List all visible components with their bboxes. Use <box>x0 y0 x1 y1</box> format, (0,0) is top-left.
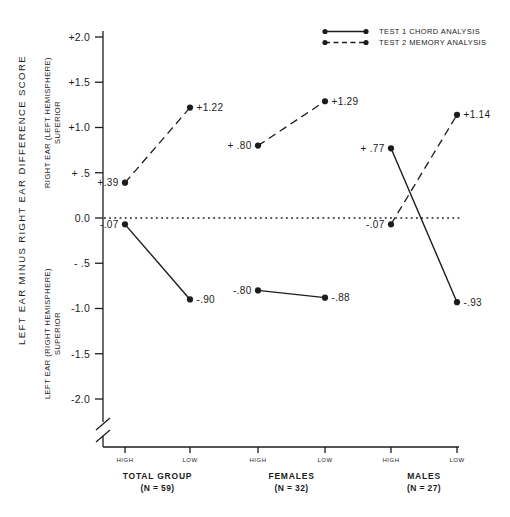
y-tick-label: -1.5 <box>71 348 90 360</box>
y-tick-label: +1.0 <box>68 121 90 133</box>
data-point-label: -.93 <box>464 297 483 308</box>
data-point <box>122 221 128 227</box>
y-region-label-lower-line2: SUPERIOR <box>52 259 62 409</box>
legend-item-test2: TEST 2 MEMORY ANALYSIS <box>321 38 486 47</box>
data-point <box>454 299 460 305</box>
y-tick-label: -1.0 <box>71 302 90 314</box>
data-point <box>322 98 328 104</box>
data-line <box>391 115 457 225</box>
y-region-label-upper: RIGHT EAR (LEFT HEMISPHERE) SUPERIOR <box>43 48 62 198</box>
legend-item-test1: TEST 1 CHORD ANALYSIS <box>321 27 486 36</box>
data-point-label: -.07 <box>366 219 385 230</box>
data-point-label: +1.29 <box>332 96 359 107</box>
data-point-label: +1.22 <box>197 102 224 113</box>
data-point-label: -.80 <box>233 285 252 296</box>
data-point-label: -.88 <box>332 292 351 303</box>
group-n-label: (N = 27) <box>407 483 441 493</box>
data-point <box>388 145 394 151</box>
group-n-label: (N = 32) <box>274 483 308 493</box>
y-tick-label: + .5 <box>71 167 90 179</box>
data-point <box>388 221 394 227</box>
data-point <box>454 112 460 118</box>
data-point-label: + .80 <box>227 140 251 151</box>
data-point-label: + .77 <box>360 143 384 154</box>
x-tick-label: HIGH <box>250 457 267 463</box>
data-point <box>122 180 128 186</box>
data-line <box>391 148 457 302</box>
data-point-label: +1.14 <box>464 109 491 120</box>
group-label: MALES <box>407 471 441 481</box>
data-point <box>255 143 261 149</box>
y-tick-label: -2.0 <box>71 393 90 405</box>
group-n-label: (N = 59) <box>140 483 174 493</box>
y-region-label-upper-line2: SUPERIOR <box>52 48 62 198</box>
y-region-label-lower: LEFT EAR (RIGHT HEMISPHERE) SUPERIOR <box>43 259 62 409</box>
data-point <box>255 287 261 293</box>
group-label: FEMALES <box>268 471 314 481</box>
x-tick-label: LOW <box>317 457 332 463</box>
y-axis-title: LEFT EAR MINUS RIGHT EAR DIFFERENCE SCOR… <box>16 50 28 350</box>
data-point <box>187 104 193 110</box>
legend-label-test2: TEST 2 MEMORY ANALYSIS <box>379 38 486 47</box>
figure-container: +2.0+1.5+1.0+ .50.0- .5-1.0-1.5-2.0HIGHL… <box>0 0 510 517</box>
y-region-label-upper-line1: RIGHT EAR (LEFT HEMISPHERE) <box>43 48 53 198</box>
x-tick-label: HIGH <box>117 457 134 463</box>
y-tick-label: +2.0 <box>68 31 90 43</box>
x-tick-label: HIGH <box>383 457 400 463</box>
data-line <box>258 290 325 297</box>
data-point-label: -.07 <box>100 219 119 230</box>
data-point-label: +.39 <box>98 177 119 188</box>
legend-label-test1: TEST 1 CHORD ANALYSIS <box>379 27 480 36</box>
legend-dashed-line-icon <box>321 38 371 47</box>
chart-plot-area: +2.0+1.5+1.0+ .50.0- .5-1.0-1.5-2.0HIGHL… <box>0 0 510 517</box>
data-point-label: -.90 <box>197 294 216 305</box>
group-label: TOTAL GROUP <box>123 471 193 481</box>
data-point <box>322 295 328 301</box>
x-tick-label: LOW <box>182 457 197 463</box>
legend-solid-line-icon <box>321 27 371 36</box>
y-tick-label: 0.0 <box>75 212 90 224</box>
data-line <box>258 101 325 145</box>
x-tick-label: LOW <box>449 457 464 463</box>
legend: TEST 1 CHORD ANALYSIS TEST 2 MEMORY ANAL… <box>321 27 486 47</box>
y-tick-label: - .5 <box>74 257 90 269</box>
data-line <box>125 224 190 299</box>
data-line <box>125 108 190 183</box>
y-tick-label: +1.5 <box>68 76 90 88</box>
data-point <box>187 296 193 302</box>
y-region-label-lower-line1: LEFT EAR (RIGHT HEMISPHERE) <box>43 259 53 409</box>
